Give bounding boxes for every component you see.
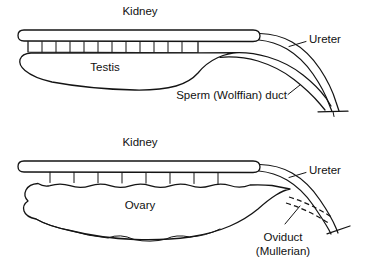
male-ureter-label: Ureter	[309, 33, 341, 45]
male-testis-label: Testis	[90, 61, 120, 73]
female-ureter-label: Ureter	[309, 164, 341, 176]
female-kidney-label: Kidney	[122, 136, 157, 148]
urogenital-comparison-figure: Kidney Testis Ureter Sperm (Wolffian) du…	[0, 0, 365, 264]
male-sperm-duct-label: Sperm (Wolffian) duct	[176, 89, 288, 101]
female-ovary-label: Ovary	[125, 199, 156, 211]
female-oviduct-label-line1: Oviduct	[264, 231, 304, 243]
female-kidney-outline	[18, 161, 260, 173]
male-kidney-outline	[18, 30, 260, 42]
anatomy-diagram: Kidney Testis Ureter Sperm (Wolffian) du…	[0, 0, 365, 264]
female-oviduct-label-line2: (Mullerian)	[256, 245, 310, 257]
male-kidney-label: Kidney	[122, 5, 157, 17]
